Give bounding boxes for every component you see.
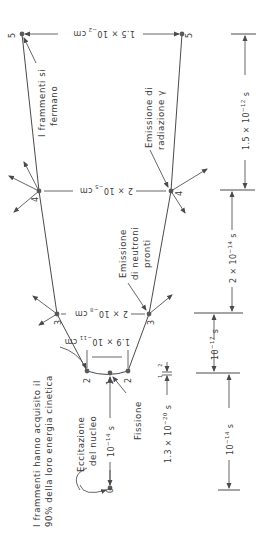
distance-4-exponent: −5 <box>95 184 104 190</box>
time-1-2-mark-2: 2 <box>157 364 163 368</box>
node-5-left <box>20 32 25 37</box>
time-0-to-1: 10−14s <box>105 377 116 485</box>
annotation-fission: Fissione <box>133 401 143 440</box>
annotation-excitation: Eccitazione del nucleo <box>76 416 98 472</box>
node-label-4-left: 4 <box>31 197 40 202</box>
time-2-3-mantissa: 10 <box>211 349 220 360</box>
timeline-ticks <box>194 34 256 490</box>
time-0-2-unit: s <box>226 424 235 429</box>
svg-text:1.5 × 10−12s: 1.5 × 10−12s <box>240 92 251 150</box>
distance-4-mantissa: 2 × 10 <box>104 186 133 195</box>
time-4-to-5: 1.5 × 10−12s <box>240 36 251 188</box>
time-1-to-2: 1 2 1.3 × 10−20s <box>157 362 173 463</box>
annotation-fragments-stop: I frammenti si fermano <box>37 69 59 137</box>
node-label-3-right: 3 <box>147 320 156 325</box>
node-label-1: 1 <box>106 380 115 385</box>
time-0-1-mantissa: 10 <box>107 446 116 457</box>
time-3-4-exponent: −14 <box>227 241 233 254</box>
fragments-energy-line2: 90% della loro energia cinetica <box>44 375 54 527</box>
distance-2-exponent: −11 <box>79 335 92 341</box>
node-label-5-right: 5 <box>185 33 194 38</box>
node-label-2-left: 2 <box>83 378 92 383</box>
distance-3-mantissa: 2 × 10 <box>99 309 128 318</box>
svg-text:2 × 10−14s: 2 × 10−14s <box>227 233 238 283</box>
distance-2-unit: cm <box>64 337 77 346</box>
distance-5-exponent: −2 <box>88 27 97 33</box>
distance-4-unit: cm <box>80 186 93 195</box>
node-2-left <box>85 369 90 374</box>
distance-4: 2 × 10−5cm <box>44 184 166 195</box>
time-1-2-mantissa: 1.3 × 10 <box>164 425 173 463</box>
time-4-5-mantissa: 1.5 × 10 <box>242 112 251 150</box>
annotation-fragments-energy: I frammenti hanno acquisito il 90% della… <box>32 375 54 527</box>
excitation-pointer-arrow <box>80 485 106 493</box>
time-1-2-mark-1: 1 <box>157 375 163 379</box>
distance-2: 1.9 × 10−11cm <box>64 335 130 368</box>
time-4-5-exponent: −12 <box>240 99 246 112</box>
time-1-2-exponent: −20 <box>162 412 168 425</box>
time-0-2-exponent: −14 <box>224 431 230 444</box>
time-2-3-exponent: −17 <box>209 336 215 349</box>
time-3-4-mantissa: 2 × 10 <box>229 254 238 283</box>
distance-5-unit: cm <box>73 29 86 38</box>
time-2-to-3: 10−17s <box>209 315 220 371</box>
fission-timeline-diagram: 0 1 2 2 3 3 4 4 5 5 1.5 × 10−2c <box>0 0 265 558</box>
svg-text:10−14s: 10−14s <box>224 424 235 455</box>
node-5-right <box>180 32 185 37</box>
excitation-line1: Eccitazione <box>76 417 86 472</box>
time-3-4-unit: s <box>229 233 238 238</box>
fragments-stop-line2: fermano <box>49 86 59 126</box>
prompt-neutrons-line2: di neutroni <box>130 227 140 280</box>
distance-3-exponent: −8 <box>90 307 99 313</box>
time-0-1-unit: s <box>107 426 116 431</box>
distance-5: 1.5 × 10−2cm <box>25 27 179 38</box>
svg-text:10−17s: 10−17s <box>209 329 220 360</box>
prompt-neutrons-line1: Emissione <box>118 229 128 278</box>
distance-5-mantissa: 1.5 × 10 <box>97 29 135 38</box>
time-0-to-2: 10−14s <box>224 375 235 488</box>
node-label-5-left: 5 <box>8 33 17 38</box>
node-label-0: 0 <box>106 488 115 493</box>
node-label-3-left: 3 <box>54 320 63 325</box>
fission-label: Fissione <box>133 401 143 440</box>
time-1-2-unit: s <box>164 405 173 410</box>
distance-3: 2 × 10−8cm <box>61 307 145 318</box>
svg-text:1.9 × 10−11cm: 1.9 × 10−11cm <box>64 335 130 346</box>
time-4-5-unit: s <box>242 92 251 97</box>
fragments-stop-line1: I frammenti si <box>37 69 47 137</box>
node-label-4-right: 4 <box>175 191 184 196</box>
svg-text:2 × 10−5cm: 2 × 10−5cm <box>80 184 133 195</box>
annotation-gamma-emission: Emissione di radiazione γ <box>144 87 166 150</box>
time-0-2-mantissa: 10 <box>226 444 235 455</box>
svg-text:10−14s: 10−14s <box>105 426 116 457</box>
fragments-energy-line1: I frammenti hanno acquisito il <box>32 380 42 527</box>
distance-2-mantissa: 1.9 × 10 <box>92 337 130 346</box>
time-0-1-exponent: −14 <box>105 433 111 446</box>
distance-3-unit: cm <box>75 309 88 318</box>
svg-text:1.3 × 10−20s: 1.3 × 10−20s <box>162 405 173 463</box>
time-3-to-4: 2 × 10−14s <box>227 192 238 311</box>
prompt-neutrons-line3: pronti <box>142 239 152 268</box>
time-2-3-unit: s <box>211 329 220 334</box>
node-2-right <box>126 369 131 374</box>
svg-text:1.5 × 10−2cm: 1.5 × 10−2cm <box>73 27 135 38</box>
gamma-line1: Emissione di <box>144 87 154 148</box>
svg-text:2 × 10−8cm: 2 × 10−8cm <box>75 307 128 318</box>
node-1 <box>108 371 113 376</box>
gamma-line2: radiazione γ <box>156 90 166 150</box>
node-label-2-right: 2 <box>124 378 133 383</box>
annotation-prompt-neutrons: Emissione di neutroni pronti <box>118 227 152 280</box>
excitation-line2: del nucleo <box>88 416 98 466</box>
